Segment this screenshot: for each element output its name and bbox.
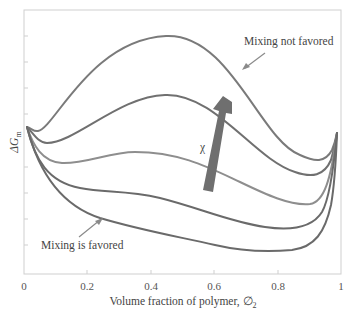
annotation-arrow-not-favored-icon <box>242 53 265 70</box>
curve-3 <box>27 127 337 204</box>
chi-label: χ <box>199 141 206 154</box>
y-axis-title-sub: m <box>14 131 23 138</box>
x-axis-title-main: Volume fraction of polymer, ∅ <box>109 295 252 308</box>
x-tick-label: 1 <box>338 280 344 292</box>
curve-4 <box>27 127 337 229</box>
y-axis-title: ΔGm <box>8 131 23 154</box>
x-tick-label: 0.8 <box>271 280 285 292</box>
chart: 0 0.2 0.4 0.6 0.8 1 Volume fraction of p… <box>0 0 355 314</box>
y-axis-ticks <box>24 36 28 245</box>
annotation-mixing-is-favored: Mixing is favored <box>41 239 124 252</box>
x-axis-title: Volume fraction of polymer, ∅2 <box>109 295 256 310</box>
chi-arrow-icon <box>203 96 232 192</box>
x-tick-label: 0.2 <box>80 280 94 292</box>
x-tick-label: 0.4 <box>144 280 158 292</box>
x-tick-label: 0 <box>21 280 27 292</box>
x-axis-ticks <box>87 270 278 274</box>
curve-5-lowest-chi <box>27 127 337 251</box>
x-tick-label: 0.6 <box>207 280 221 292</box>
curve-1-highest-chi <box>27 36 337 160</box>
plot-frame <box>24 10 341 274</box>
annotation-arrow-favored-icon <box>79 218 103 237</box>
x-axis-title-sub: 2 <box>253 301 257 310</box>
y-axis-title-main: ΔG <box>8 137 20 154</box>
curves <box>27 36 337 251</box>
annotation-mixing-not-favored: Mixing not favored <box>244 35 334 48</box>
